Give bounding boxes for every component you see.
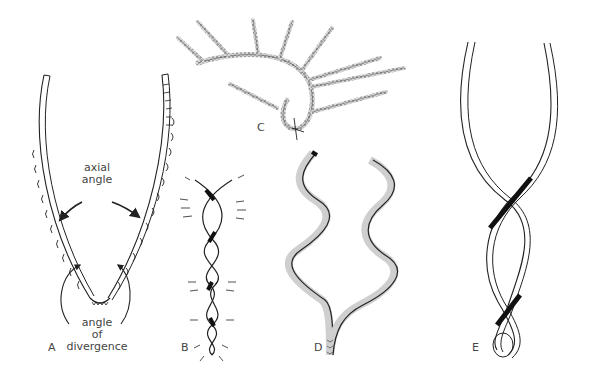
angle-of-divergence-label: angle of divergence xyxy=(66,317,127,353)
panel-label-c: C xyxy=(257,122,265,134)
panel-label-e: E xyxy=(472,342,479,354)
axial-angle-line2: angle xyxy=(82,174,113,186)
panel-label-b: B xyxy=(181,342,189,354)
panel-label-d: D xyxy=(314,342,322,354)
panel-c-drawing xyxy=(178,20,404,140)
divergence-line3: divergence xyxy=(66,341,127,353)
panel-b-drawing xyxy=(180,175,246,361)
panel-e-drawing xyxy=(460,42,557,358)
panel-d-drawing xyxy=(289,152,398,355)
axial-angle-label: axial angle xyxy=(82,162,113,186)
panel-label-a: A xyxy=(48,342,56,354)
panel-a-drawing xyxy=(33,74,175,324)
